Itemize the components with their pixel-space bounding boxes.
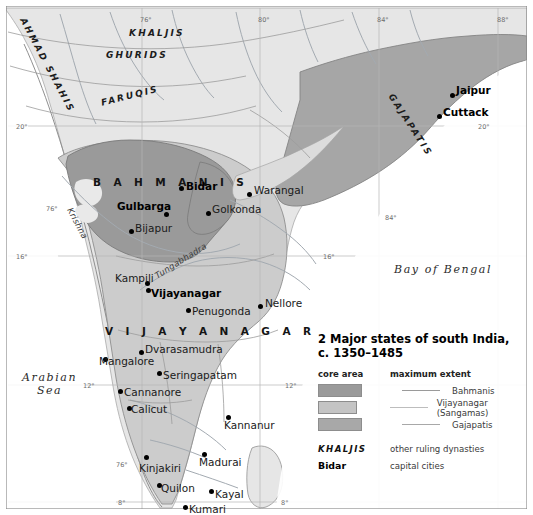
city-label-penugonda: Penugonda (192, 305, 251, 317)
sea-label-bay-of-bengal: Bay of Bengal (394, 263, 492, 276)
legend-swatch (318, 384, 362, 397)
coordinate-label-2: 84° (377, 16, 389, 24)
legend-title-line1: 2 Major states of south India, (318, 332, 530, 346)
capital-label-gulbarga: Gulbarga (117, 200, 171, 212)
sea-label-line1: Arabian (22, 371, 77, 384)
capital-dot-jaipur (450, 93, 455, 98)
capital-dot-gulbarga (164, 212, 169, 217)
legend-extra-khaljis: KHALJISother ruling dynasties (318, 444, 530, 454)
city-label-calicut: Calicut (131, 403, 167, 415)
region-label-bahmanis: B A H M A N I S (93, 176, 248, 188)
coordinate-label-4: 20° (16, 123, 28, 131)
capital-label-vijayanagar: Vijayanagar (151, 287, 221, 299)
city-dot-kinjakiri (144, 455, 149, 460)
map-legend: 2 Major states of south India, c. 1350–1… (318, 332, 530, 477)
city-label-warangal: Warangal (254, 184, 304, 196)
sea-label-arabian-sea: ArabianSea (22, 371, 77, 397)
city-label-kayal: Kayal (215, 488, 244, 500)
legend-extra-key: KHALJIS (318, 444, 390, 454)
city-dot-warangal (247, 192, 252, 197)
city-label-madurai: Madurai (199, 456, 241, 468)
city-dot-cannanore (118, 389, 123, 394)
coordinate-label-3: 88° (497, 16, 509, 24)
city-label-kinjakiri: Kinjakiri (139, 462, 181, 474)
city-dot-nellore (258, 304, 263, 309)
city-dot-bijapur (129, 229, 134, 234)
capital-label-cuttack: Cuttack (443, 106, 489, 118)
legend-row-label: Bahmanis (452, 386, 495, 396)
city-label-golkonda: Golkonda (212, 203, 261, 215)
coordinate-label-11: 8° (118, 499, 125, 507)
legend-row-gajapatis: Gajapatis (318, 417, 530, 432)
legend-extra-rows: KHALJISother ruling dynastiesBidarcapita… (318, 444, 530, 471)
city-dot-kumari (183, 505, 188, 510)
legend-line-wrap (390, 390, 452, 392)
region-label-vijayanagar: V I J A Y A N A G A R (105, 325, 316, 337)
legend-column-headers: core area maximum extent (318, 369, 530, 379)
sea-label-line2: Sea (22, 384, 77, 397)
legend-line-wrap (382, 407, 437, 409)
legend-line-wrap (390, 424, 452, 426)
legend-extra-bidar: Bidarcapital cities (318, 460, 530, 471)
legend-extra-desc: capital cities (390, 461, 444, 471)
coordinate-label-13: 76° (116, 461, 128, 469)
city-label-kannanur: Kannanur (224, 419, 275, 431)
city-label-cannanore: Cannanore (124, 386, 181, 398)
legend-title: 2 Major states of south India, c. 1350–1… (318, 332, 530, 360)
legend-header-core-area: core area (318, 369, 390, 379)
legend-swatch (318, 401, 357, 414)
legend-swatch (318, 418, 362, 431)
legend-extent-line (402, 390, 440, 392)
legend-extent-line (402, 424, 440, 426)
coordinate-label-14: 76° (46, 205, 58, 213)
legend-header-max-extent: maximum extent (390, 369, 471, 379)
dynasty-label-khaljis: KHALJIS (129, 28, 185, 38)
coordinate-label-0: 76° (140, 16, 152, 24)
coordinate-label-10: 84° (385, 214, 397, 222)
coordinate-label-12: 8° (281, 499, 288, 507)
city-dot-seringapatam (157, 371, 162, 376)
capital-label-jaipur: Jaipur (456, 84, 491, 96)
city-label-mangalore: Mangalore (99, 355, 154, 367)
city-label-bijapur: Bijapur (135, 222, 172, 234)
city-label-quilon: Quilon (161, 482, 195, 494)
coordinate-label-6: 16° (16, 253, 28, 261)
legend-row-label: Gajapatis (452, 420, 493, 430)
legend-extra-desc: other ruling dynasties (390, 444, 484, 454)
coordinate-label-7: 16° (323, 253, 335, 261)
city-label-nellore: Nellore (265, 297, 302, 309)
city-label-kumari: Kumari (189, 503, 226, 515)
map-canvas: 76°80°84°88°20°20°16°16°12°12°84°8°8°76°… (0, 0, 533, 515)
capital-label-bidar: Bidar (186, 180, 217, 192)
coordinate-label-5: 20° (478, 123, 490, 131)
legend-extra-key: Bidar (318, 460, 390, 471)
city-label-dvarasamudra: Dvarasamudra (145, 343, 223, 355)
legend-row-vijayanagar-sangamas-: Vijayanagar (Sangamas) (318, 400, 530, 415)
coordinate-label-9: 12° (285, 382, 297, 390)
sea-label-line1: Bay of Bengal (394, 263, 492, 276)
capital-dot-cuttack (437, 114, 442, 119)
coordinate-label-1: 80° (258, 16, 270, 24)
capital-dot-bidar (179, 186, 184, 191)
city-dot-kayal (209, 489, 214, 494)
legend-extent-line (390, 407, 428, 409)
city-dot-golkonda (206, 211, 211, 216)
legend-rows: BahmanisVijayanagar (Sangamas)Gajapatis (318, 383, 530, 432)
city-label-seringapatam: Seringapatam (163, 369, 237, 381)
legend-row-bahmanis: Bahmanis (318, 383, 530, 398)
city-dot-penugonda (186, 308, 191, 313)
legend-row-label: Vijayanagar (Sangamas) (437, 398, 530, 418)
legend-title-line2: c. 1350–1485 (318, 346, 530, 360)
dynasty-label-ghurids: GHURIDS (106, 50, 168, 60)
city-label-kampili: Kampili (115, 272, 154, 284)
coordinate-label-8: 12° (83, 382, 95, 390)
